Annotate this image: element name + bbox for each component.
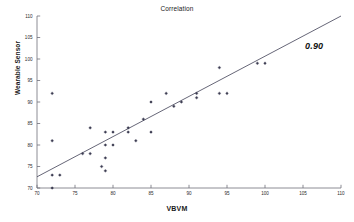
x-tick-label: 90 [186, 191, 192, 196]
data-point [127, 130, 130, 133]
data-point [51, 92, 54, 95]
y-axis-ticks: 707580859095100105110 [25, 14, 40, 191]
data-point [89, 152, 92, 155]
data-point [149, 100, 152, 103]
y-axis-label: Wearable Sensor [14, 41, 21, 95]
data-point [51, 173, 54, 176]
y-axis-label-container: Wearable Sensor [6, 18, 18, 118]
y-tick-label: 105 [25, 35, 33, 40]
x-tick-label: 95 [224, 191, 230, 196]
data-point [104, 143, 107, 146]
data-point [89, 126, 92, 129]
data-point [218, 92, 221, 95]
data-point [104, 130, 107, 133]
data-point [104, 156, 107, 159]
x-tick-label: 105 [299, 191, 307, 196]
y-tick-label: 95 [27, 78, 33, 83]
x-tick-label: 85 [148, 191, 154, 196]
data-point [165, 92, 168, 95]
y-tick-label: 85 [27, 121, 33, 126]
data-point [51, 139, 54, 142]
x-tick-label: 75 [72, 191, 78, 196]
y-tick-label: 90 [27, 100, 33, 105]
data-point [51, 186, 54, 189]
scatter-plot-canvas: 707580859095100105110 707580859095100105… [0, 0, 354, 222]
y-tick-label: 100 [25, 57, 33, 62]
data-point [100, 165, 103, 168]
chart-screenshot: Correlation 707580859095100105110 707580… [0, 0, 354, 222]
data-point [111, 143, 114, 146]
y-tick-label: 70 [27, 186, 33, 191]
plot-axes [37, 16, 341, 188]
data-point [134, 139, 137, 142]
x-tick-label: 80 [110, 191, 116, 196]
y-tick-label: 75 [27, 164, 33, 169]
data-point [256, 62, 259, 65]
data-point [225, 92, 228, 95]
x-axis-ticks: 707580859095100105110 [34, 185, 345, 196]
data-point [263, 62, 266, 65]
data-point [142, 118, 145, 121]
y-tick-label: 80 [27, 143, 33, 148]
data-point [195, 96, 198, 99]
data-points-group [51, 62, 267, 190]
x-tick-label: 110 [337, 191, 345, 196]
data-point [104, 169, 107, 172]
x-axis-label: VBVM [0, 205, 354, 212]
x-tick-label: 100 [261, 191, 269, 196]
data-point [111, 130, 114, 133]
y-tick-label: 110 [25, 14, 33, 19]
correlation-annotation: 0.90 [305, 41, 323, 51]
data-point [149, 130, 152, 133]
x-tick-label: 70 [34, 191, 40, 196]
data-point [218, 66, 221, 69]
data-point [58, 173, 61, 176]
